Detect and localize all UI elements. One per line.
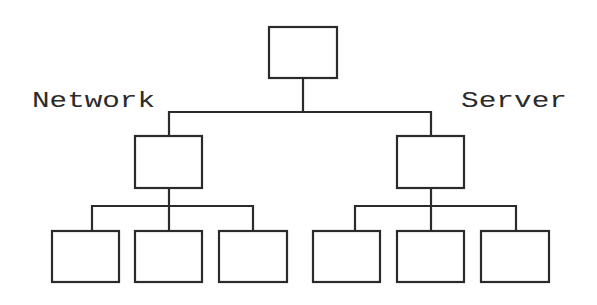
hierarchy-diagram: Network Server: [0, 0, 597, 305]
network-node: [135, 136, 202, 188]
server-node: [397, 136, 464, 188]
server-child-node: [397, 231, 464, 282]
level1-connector: [169, 112, 431, 136]
network-children-connector: [92, 206, 253, 231]
server-child-node: [481, 231, 549, 282]
server-child-node: [313, 231, 380, 282]
server-label: Server: [461, 89, 567, 114]
network-child-node: [135, 231, 202, 282]
nodes: [52, 27, 549, 282]
network-child-node: [52, 231, 119, 282]
network-child-node: [219, 231, 287, 282]
server-children-connector: [355, 206, 516, 231]
root-node: [269, 27, 337, 78]
network-label: Network: [32, 89, 155, 114]
